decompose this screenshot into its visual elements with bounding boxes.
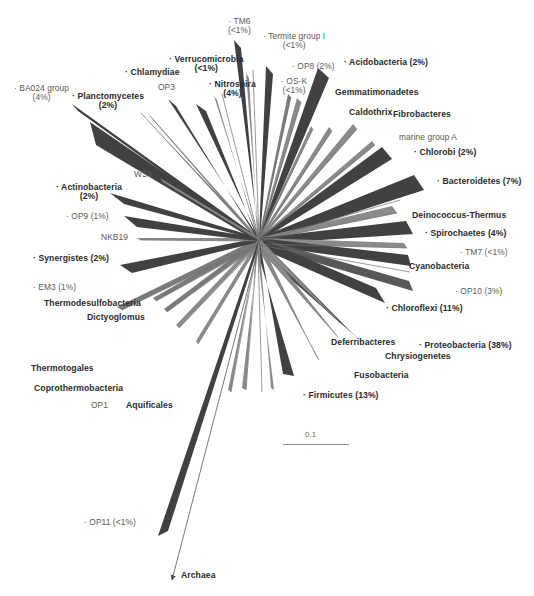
label-caldothrix: Caldothrix	[349, 108, 392, 117]
label-os-k: · OS-K(<1%)	[281, 77, 307, 95]
label-op8: · OP8 (2%)	[292, 62, 335, 71]
label-ba024-group: · BA024 group(4%)	[14, 84, 69, 102]
label-termite-group-i: · Termite group I(<1%)	[263, 32, 325, 50]
scale-bar-value: 0.1	[305, 430, 316, 439]
label-tm7: · TM7 (<1%)	[460, 248, 508, 257]
label-deferribacteres: Deferribacteres	[331, 338, 395, 347]
archaea-outgroup-branch	[172, 250, 258, 580]
label-fusobacteria: Fusobacteria	[354, 371, 409, 380]
label-cyanobacteria: Cyanobacteria	[409, 262, 469, 271]
label-actinobacteria: · Actinobacteria(2%)	[56, 183, 122, 202]
label-tm6: · TM6(<1%)	[228, 17, 251, 35]
label-coprothermobacteria: Coprothermobacteria	[34, 384, 123, 393]
label-chlorobi: · Chlorobi (2%)	[414, 148, 476, 157]
branch-aquificales-stem	[246, 250, 257, 390]
label-ws6: WS6	[134, 170, 152, 179]
phylogenetic-tree-figure: · BA024 group(4%) · Planctomycetes(2%) ·…	[0, 0, 534, 596]
label-proteobacteria: · Proteobacteria (38%)	[419, 341, 512, 350]
label-planctomycetes: · Planctomycetes(2%)	[72, 92, 144, 111]
label-acidobacteria: · Acidobacteria (2%)	[344, 58, 428, 67]
label-nkb19: NKB19	[101, 233, 128, 242]
label-firmicutes: · Firmicutes (13%)	[303, 391, 379, 400]
label-op9: · OP9 (1%)	[66, 212, 109, 221]
label-em3: · EM3 (1%)	[33, 283, 76, 292]
label-chloroflexi: · Chloroflexi (11%)	[386, 304, 463, 313]
label-chrysiogenetes: Chrysiogenetes	[385, 352, 451, 361]
label-verrucomicrobia: · Verrucomicrobia(<1%)	[169, 55, 244, 74]
label-nitrospira: · Nitrospira(4%)	[209, 80, 256, 99]
label-gemmatimonadetes: Gemmatimonadetes	[335, 88, 419, 97]
label-synergistes: · Synergistes (2%)	[33, 254, 109, 263]
label-spirochaetes: · Spirochaetes (4%)	[425, 229, 506, 238]
label-aquificales: Aquificales	[126, 401, 173, 410]
label-marine-group-a: marine group A	[399, 133, 457, 142]
label-dictyoglomus: Dictyoglomus	[87, 313, 145, 322]
label-op11: · OP11 (<1%)	[84, 518, 136, 527]
label-archaea: Archaea	[181, 571, 216, 580]
label-thermotogales: Thermotogales	[31, 364, 94, 373]
label-bacteroidetes: · Bacteroidetes (7%)	[437, 177, 521, 186]
label-op1: OP1	[91, 401, 108, 410]
label-op10: · OP10 (3%)	[455, 287, 502, 296]
scale-bar-line	[283, 444, 349, 445]
label-op3: OP3	[158, 83, 175, 92]
label-thermodesulfobacteria: Thermodesulfobacteria	[44, 299, 141, 308]
label-fibrobacteres: Fibrobacteres	[393, 110, 451, 119]
label-deinococcus-thermus: Deinococcus-Thermus	[412, 211, 506, 220]
